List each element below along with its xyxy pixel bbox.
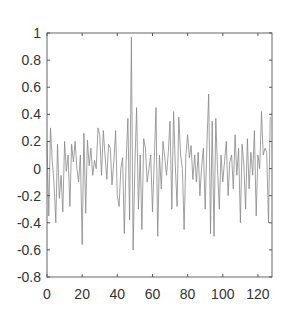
x-tick-label: 100 bbox=[211, 286, 235, 302]
line-chart: 020406080100120 10.80.60.40.20-0.2-0.4-0… bbox=[0, 0, 293, 326]
y-axis: 10.80.60.40.20-0.2-0.4-0.6-0.8 bbox=[17, 25, 272, 285]
y-tick-label: 0 bbox=[33, 161, 41, 177]
x-tick-label: 60 bbox=[145, 286, 161, 302]
y-tick-label: 0.4 bbox=[22, 106, 42, 122]
signal-line bbox=[47, 37, 270, 250]
x-tick-label: 120 bbox=[246, 286, 270, 302]
x-tick-label: 20 bbox=[74, 286, 90, 302]
y-tick-label: -0.6 bbox=[17, 242, 41, 258]
y-tick-label: 0.2 bbox=[22, 133, 42, 149]
x-tick-label: 40 bbox=[110, 286, 126, 302]
y-tick-label: 0.6 bbox=[22, 79, 42, 95]
y-tick-label: -0.4 bbox=[17, 215, 41, 231]
x-tick-label: 80 bbox=[180, 286, 196, 302]
y-tick-label: 1 bbox=[33, 25, 41, 41]
x-tick-label: 0 bbox=[43, 286, 51, 302]
y-tick-label: 0.8 bbox=[22, 52, 42, 68]
y-tick-label: -0.2 bbox=[17, 188, 41, 204]
y-tick-label: -0.8 bbox=[17, 269, 41, 285]
